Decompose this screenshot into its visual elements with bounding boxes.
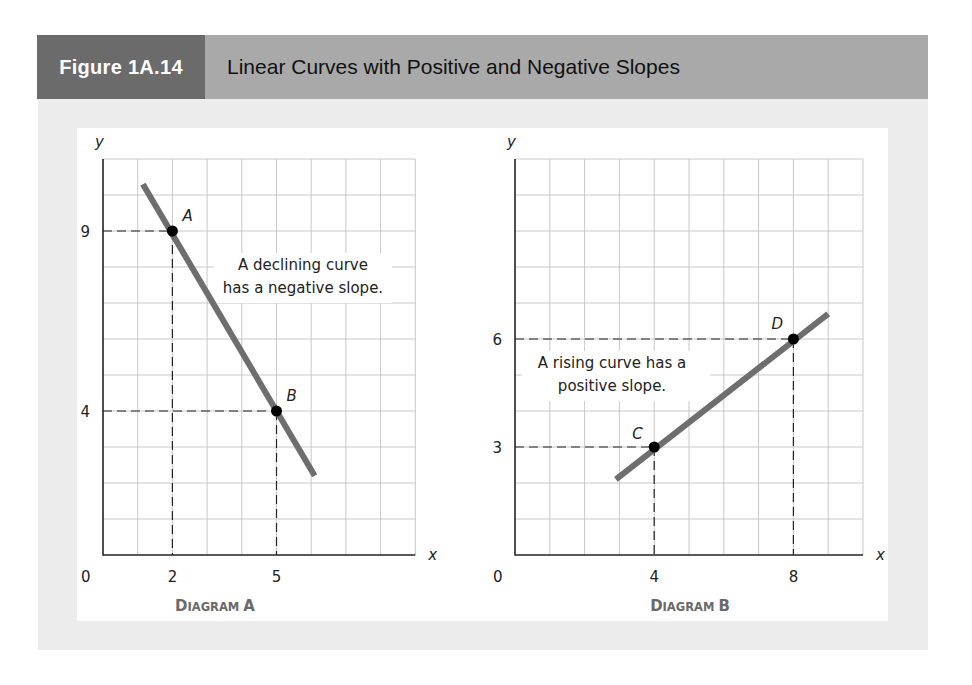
y-tick-label: 3 — [492, 439, 502, 457]
x-tick-label: 2 — [168, 568, 178, 586]
x-tick-label: 4 — [649, 568, 659, 586]
x-axis-label: x — [427, 546, 437, 564]
y-axis-label: y — [94, 133, 105, 151]
x-tick-label: 8 — [789, 568, 799, 586]
origin-label: 0 — [81, 568, 91, 586]
grid — [103, 159, 415, 555]
x-axis-label: x — [875, 546, 885, 564]
annotation-text: A declining curve — [238, 256, 368, 274]
data-point-c — [649, 442, 660, 453]
diagram-caption: DIAGRAM A — [175, 597, 255, 615]
y-tick-label: 9 — [80, 223, 90, 241]
diagram-a: yx02594ABA declining curvehas a negative… — [80, 133, 437, 615]
data-point-b — [271, 406, 282, 417]
point-label-a: A — [181, 207, 192, 225]
y-tick-label: 4 — [80, 403, 90, 421]
diagram-b: yx04863CDA rising curve has apositive sl… — [492, 133, 885, 615]
origin-label: 0 — [493, 568, 503, 586]
point-label-d: D — [771, 315, 783, 333]
annotation-text: positive slope. — [558, 377, 666, 395]
data-point-a — [167, 226, 178, 237]
y-tick-label: 6 — [492, 331, 502, 349]
point-label-c: C — [632, 425, 643, 443]
annotation-text: has a negative slope. — [223, 279, 383, 297]
annotation-text: A rising curve has a — [538, 354, 686, 372]
charts-canvas: yx02594ABA declining curvehas a negative… — [0, 0, 972, 685]
x-tick-label: 5 — [272, 568, 282, 586]
data-point-d — [788, 334, 799, 345]
point-label-b: B — [287, 387, 297, 405]
y-axis-label: y — [506, 133, 517, 151]
diagram-caption: DIAGRAM B — [650, 597, 730, 615]
